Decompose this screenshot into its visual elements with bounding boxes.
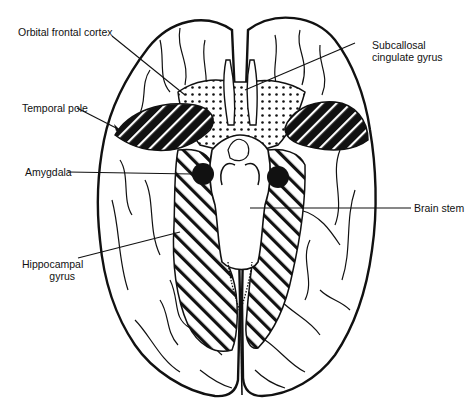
label-amygdala: Amygdala [25,166,72,178]
olfactory-tract-right [247,60,257,125]
label-brain-stem: Brain stem [414,202,464,214]
label-text: Orbital frontal cortex [18,26,113,38]
amygdala-left [192,163,214,185]
label-text: gyrus [22,270,75,282]
label-text: Brain stem [414,202,464,214]
label-text: cingulate gyrus [372,51,443,63]
label-orbital-frontal-cortex: Orbital frontal cortex [18,26,113,38]
label-text: Amygdala [25,166,72,178]
label-temporal-pole: Temporal pole [22,102,88,114]
label-text: Temporal pole [22,102,88,114]
label-text: Subcallosal [372,39,443,51]
label-subcallosal-cingulate-gyrus: Subcallosal cingulate gyrus [372,39,443,63]
label-text: Hippocampal [22,258,75,270]
amygdala-right [267,166,289,188]
label-hippocampal-gyrus: Hippocampal gyrus [22,258,75,282]
